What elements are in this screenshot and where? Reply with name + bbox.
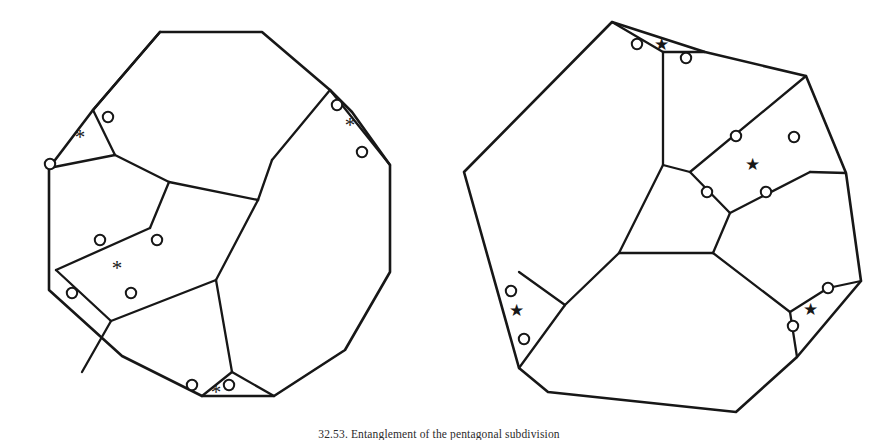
edge-mid-diagonal-c [258, 160, 272, 200]
edge-mid-diagonal-b [169, 182, 258, 200]
edge-upper-left-spur [93, 32, 160, 110]
node-right-lower [357, 147, 367, 157]
node-quad-bottom-left [67, 288, 77, 298]
edge-center-left-a [663, 165, 690, 172]
node-center-upper-left [731, 131, 741, 141]
marker-left-star: * [75, 125, 86, 149]
node-center-lower-right [761, 187, 771, 197]
node-top-left [632, 39, 642, 49]
node-right-upper [332, 100, 342, 110]
node-quad-top-right [152, 235, 162, 245]
edge-lower-spur-b [216, 280, 232, 372]
edge-quad-bottom [56, 270, 111, 321]
edge-right-star-base [272, 90, 330, 160]
node-center-lower-left [702, 187, 712, 197]
left-panel-nodes [45, 100, 367, 390]
node-right-star-lower [788, 321, 798, 331]
node-left-star-lower [519, 334, 529, 344]
node-top-right [681, 53, 691, 63]
edge-left-star-upper [519, 272, 565, 305]
node-left-lower [45, 159, 55, 169]
edge-quad-left [56, 228, 150, 270]
edge-bottom-star-right [232, 372, 274, 396]
marker-top-star: ★ [654, 35, 669, 54]
left-panel: * * * * [45, 32, 390, 404]
marker-center-star: ★ [745, 155, 760, 174]
right-panel: ★ ★ ★ ★ [464, 22, 861, 412]
node-right-star-upper [823, 283, 833, 293]
edge-quad-top [150, 182, 169, 228]
marker-right-star: ★ [803, 300, 818, 319]
node-left-star-upper [506, 286, 516, 296]
node-bottom-left [187, 380, 197, 390]
edge-lower-spur-a [82, 321, 111, 372]
left-panel-inner-edges [49, 32, 390, 396]
edge-mid-diagonal-a [115, 155, 169, 182]
node-bottom-right [224, 380, 234, 390]
node-left-upper [103, 112, 113, 122]
edge-quad-right [111, 280, 216, 321]
figure-canvas: * * * * [0, 0, 878, 444]
marker-center-star: * [112, 256, 123, 280]
edge-hub-to-chain [713, 213, 730, 253]
edge-hub-lower-left [565, 253, 619, 305]
edge-hub-lower-right [713, 253, 790, 312]
node-quad-top-left [95, 235, 105, 245]
node-center-upper-right [789, 132, 799, 142]
edge-center-right-out [810, 172, 846, 173]
marker-left-star: ★ [509, 301, 524, 320]
marker-right-star: * [345, 113, 356, 137]
marker-bottom-star: * [211, 380, 222, 404]
edge-right-star-lower [790, 312, 797, 357]
node-quad-bottom-right [126, 288, 136, 298]
edge-center-lower-left [619, 165, 663, 253]
edge-long-diagonal [216, 200, 258, 280]
figure-caption: 32.53. Entanglement of the pentagonal su… [0, 428, 878, 440]
figure-root: * * * * [0, 0, 878, 444]
